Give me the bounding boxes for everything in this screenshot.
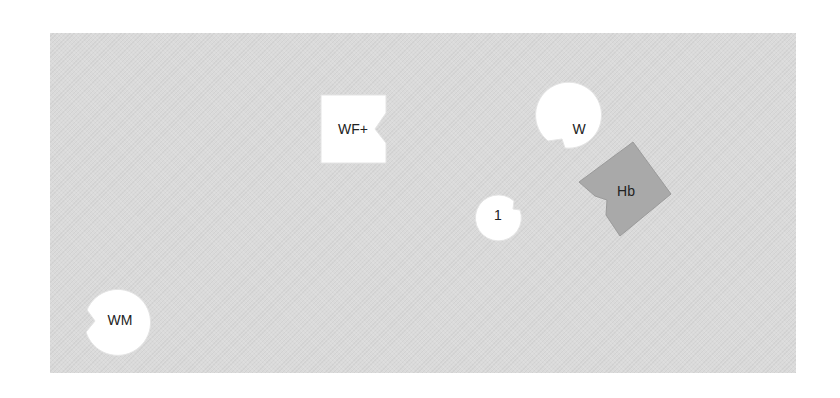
piece-label: 1: [494, 207, 502, 223]
piece-w[interactable]: W: [536, 82, 602, 148]
piece-label: Hb: [617, 183, 635, 199]
piece-label: W: [572, 121, 586, 137]
piece-label: WM: [108, 312, 133, 328]
piece-wf-plus[interactable]: WF+: [321, 95, 386, 163]
piece-hb[interactable]: Hb: [579, 142, 671, 236]
piece-wm[interactable]: WM: [86, 289, 151, 355]
piece-one[interactable]: 1: [475, 195, 521, 241]
piece-label: WF+: [338, 121, 368, 137]
